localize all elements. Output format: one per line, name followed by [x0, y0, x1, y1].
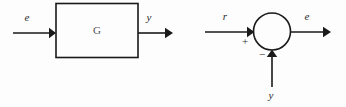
- figure-root: e G y r +: [0, 0, 346, 107]
- feedback-arrowhead-y: [267, 50, 277, 58]
- feedback-signal-label-y: y: [268, 89, 274, 101]
- negative-sign-label: −: [259, 48, 265, 60]
- output-arrowhead-y: [165, 28, 173, 38]
- input-signal-label-e: e: [25, 11, 30, 23]
- input-arrow-e: [13, 28, 56, 38]
- error-output-arrow-e: [291, 27, 332, 37]
- plant-block-diagram: e G y: [13, 4, 173, 58]
- block-diagram-canvas: e G y r +: [0, 0, 346, 107]
- error-signal-label-e: e: [305, 10, 310, 22]
- plant-block-label-g: G: [93, 24, 101, 36]
- summing-junction-diagram: r + e − y: [205, 10, 331, 101]
- input-arrowhead-e: [49, 28, 56, 38]
- output-arrow-y: [138, 28, 173, 38]
- positive-sign-label: +: [242, 35, 248, 47]
- output-signal-label-y: y: [146, 11, 152, 23]
- feedback-arrow-y: [267, 50, 277, 88]
- error-output-arrowhead-e: [323, 27, 331, 37]
- summing-junction-circle: [254, 13, 291, 50]
- reference-signal-label-r: r: [223, 10, 228, 22]
